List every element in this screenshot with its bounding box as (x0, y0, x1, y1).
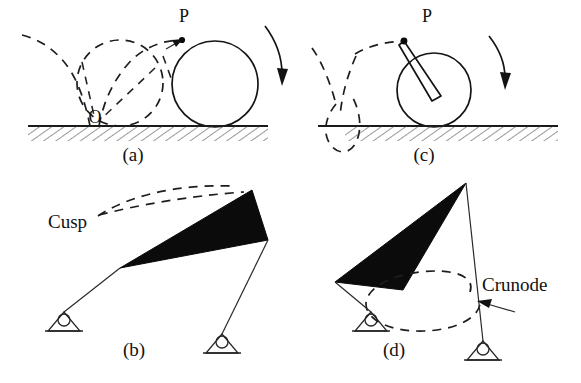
panel-b-right-crank (222, 240, 268, 334)
panel-a-rotation-arrow (265, 26, 288, 86)
panel-b: Cusp (b) (45, 186, 268, 361)
panel-b-cusp-label: Cusp (48, 211, 87, 232)
panel-c-ground (318, 126, 558, 141)
panel-a-caption: (a) (122, 144, 143, 166)
panel-d-right-ground-pivot (464, 341, 502, 360)
panel-c-caption: (c) (413, 144, 434, 166)
panel-b-coupler-link (120, 190, 268, 268)
panel-c-rotation-arrow (489, 36, 511, 90)
panel-d-right-crank (466, 183, 483, 341)
panel-d-caption: (d) (383, 339, 405, 361)
panel-c-trochoid-dashed-curve (312, 41, 404, 116)
panel-c-rod (399, 38, 441, 101)
panel-d-crunode-pointer-arrow (477, 299, 515, 312)
panel-a-label-o: O (89, 107, 102, 127)
panel-a: P O (a) (22, 6, 288, 166)
panel-a-ground (28, 126, 268, 141)
panel-b-caption: (b) (123, 339, 145, 361)
panel-c-label-p: P (422, 6, 432, 26)
panel-b-left-ground-pivot (45, 312, 83, 331)
panel-a-label-p: P (179, 6, 189, 26)
panel-d-crunode-label: Crunode (482, 274, 547, 295)
panel-d-left-crank (335, 282, 371, 312)
panel-d: Crunode (d) (335, 183, 547, 361)
figure-root: P O (a) (0, 0, 581, 383)
panel-d-coupler-link (335, 183, 466, 290)
panel-d-left-ground-pivot (352, 312, 390, 331)
panel-c-rolling-circle (397, 53, 471, 127)
panel-c-crunode-loop (326, 98, 360, 152)
figure-canvas: P O (a) (0, 0, 581, 383)
panel-b-right-ground-pivot (203, 334, 241, 353)
panel-b-left-crank (64, 268, 120, 312)
panel-c: P (c) (312, 6, 558, 166)
panel-a-tracing-point-p (166, 37, 185, 49)
panel-a-rolling-circle (172, 41, 258, 127)
panel-a-cycloid-dashed-curve (22, 35, 182, 126)
